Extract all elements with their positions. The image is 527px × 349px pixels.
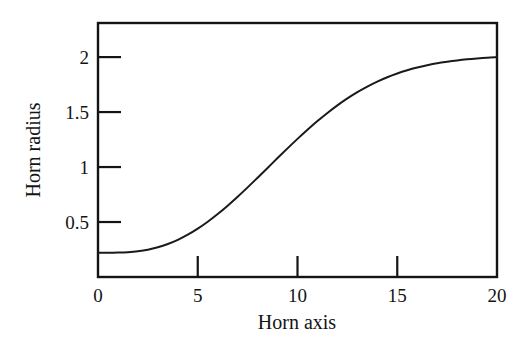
x-tick-label-10: 10 [288,286,307,305]
y-tick-label-2: 2 [80,48,90,67]
x-tick-label-0: 0 [93,286,103,305]
x-axis-label: Horn axis [258,311,336,334]
x-axis-ticks [198,256,398,276]
y-axis-label: Horn radius [22,103,45,198]
x-tick-label-20: 20 [488,286,507,305]
y-tick-label-1.5: 1.5 [65,103,89,122]
data-series-horn-profile [98,57,497,253]
y-axis-ticks [99,57,121,222]
x-tick-label-15: 15 [388,286,407,305]
x-tick-label-5: 5 [193,286,203,305]
chart-figure: 05101520 0.511.52 Horn axis Horn radius [0,0,527,349]
y-tick-label-1: 1 [80,158,90,177]
plot-frame [98,23,497,277]
y-tick-label-0.5: 0.5 [65,213,89,232]
